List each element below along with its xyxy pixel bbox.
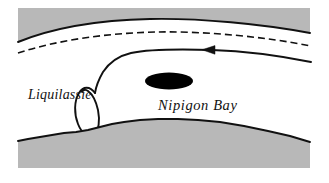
map-figure: Liquilassie Nipigon Bay — [0, 0, 329, 183]
label-nipigon-bay: Nipigon Bay — [157, 97, 238, 113]
map-canvas: Liquilassie Nipigon Bay — [0, 0, 329, 183]
nipigon-bay-island — [145, 73, 193, 90]
label-liquilassie: Liquilassie — [27, 87, 92, 102]
